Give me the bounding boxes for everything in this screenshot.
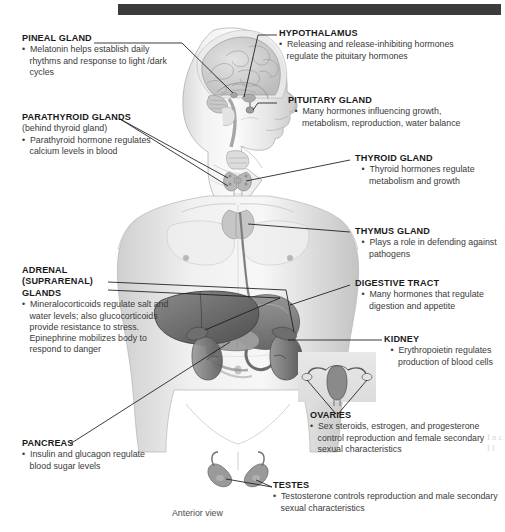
label-bullet: Parathyroid hormone regulates calcium le… <box>22 135 180 158</box>
label-title: THYROID GLAND <box>355 153 495 164</box>
label-title: PITUITARY GLAND <box>288 95 484 106</box>
label-title: KIDNEY <box>384 334 496 345</box>
label-pancreas: PANCREAS Insulin and glucagon regulate b… <box>22 438 150 472</box>
label-parathyroid-glands: PARATHYROID GLANDS (behind thyroid gland… <box>22 112 180 157</box>
label-bullet: Mineralocorticoids regulate salt and wat… <box>22 299 174 355</box>
label-bullet: Insulin and glucagon regulate blood suga… <box>22 449 150 472</box>
label-adrenal-glands: ADRENAL (SUPRARENAL) GLANDS Mineralocort… <box>22 265 174 356</box>
label-bullet: Many hormones that regulate digestion an… <box>355 289 491 312</box>
label-bullet: Releasing and release-inhibiting hormone… <box>279 39 475 62</box>
label-title: THYMUS GLAND <box>355 226 497 237</box>
label-title: ADRENAL (SUPRARENAL) GLANDS <box>22 265 118 299</box>
label-title: TESTES <box>273 480 498 491</box>
ovaries-inset <box>298 352 376 406</box>
leader-thyroid <box>246 160 350 181</box>
label-bullet: Many hormones influencing growth, metabo… <box>288 106 484 129</box>
label-testes: TESTES Testosterone controls reproductio… <box>273 480 498 514</box>
label-subtitle: (behind thyroid gland) <box>22 123 180 134</box>
label-pineal-gland: PINEAL GLAND Melatonin helps establish d… <box>22 33 172 78</box>
label-hypothalamus: HYPOTHALAMUS Releasing and release-inhib… <box>279 28 475 62</box>
label-digestive-tract: DIGESTIVE TRACT Many hormones that regul… <box>355 278 491 312</box>
label-title: DIGESTIVE TRACT <box>355 278 491 289</box>
label-title: HYPOTHALAMUS <box>279 28 475 39</box>
label-title: OVARIES <box>310 410 496 421</box>
label-thyroid-gland: THYROID GLAND Thyroid hormones regulate … <box>355 153 495 187</box>
page-bleed-text: I n c I l <box>487 432 505 455</box>
label-title: PANCREAS <box>22 438 150 449</box>
label-bullet: Plays a role in defending against pathog… <box>355 237 497 260</box>
label-title: PINEAL GLAND <box>22 33 172 44</box>
label-ovaries: OVARIES Sex steroids, estrogen, and prog… <box>310 410 496 455</box>
label-bullet: Thyroid hormones regulate metabolism and… <box>355 164 495 187</box>
label-bullet: Melatonin helps establish daily rhythms … <box>22 44 172 78</box>
label-bullet: Erythropoietin regulates production of b… <box>384 345 496 368</box>
label-title: PARATHYROID GLANDS <box>22 112 180 123</box>
label-thymus-gland: THYMUS GLAND Plays a role in defending a… <box>355 226 497 260</box>
label-bullet: Testosterone controls reproduction and m… <box>273 491 498 514</box>
label-bullet: Sex steroids, estrogen, and progesterone… <box>310 421 496 455</box>
label-kidney: KIDNEY Erythropoietin regulates producti… <box>384 334 496 368</box>
label-pituitary-gland: PITUITARY GLAND Many hormones influencin… <box>288 95 484 129</box>
figure-caption: Anterior view <box>172 508 223 518</box>
